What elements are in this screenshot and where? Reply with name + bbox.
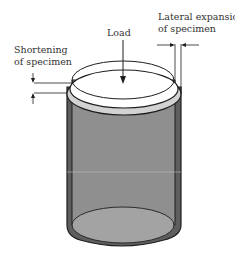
bottom-face [72, 207, 174, 243]
cylinder-illustration [0, 0, 235, 257]
shortening-label-line2: of specimen [14, 56, 72, 67]
lateral-label-line1: Lateral expansion [158, 11, 235, 22]
shortening-label-line1: Shortening [14, 44, 68, 55]
shortening-dimension [31, 73, 72, 104]
lateral-label-line2: of specimen [158, 23, 216, 34]
load-arrow-icon [120, 40, 126, 84]
load-label: Load [107, 27, 131, 38]
compressed-top-face [70, 70, 178, 108]
compression-diagram: Load Shortening of specimen Lateral expa… [0, 0, 235, 257]
